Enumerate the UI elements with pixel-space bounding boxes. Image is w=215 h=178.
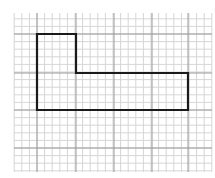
grid-diagram xyxy=(0,0,215,178)
